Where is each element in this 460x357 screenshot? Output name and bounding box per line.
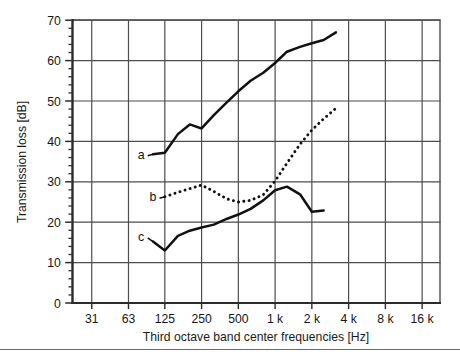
x-tick-label-125: 125 (155, 312, 176, 326)
figure-bottom-rule (0, 349, 460, 350)
curve-label-c: c (138, 230, 144, 244)
x-tick-label-8k: 8 k (377, 312, 394, 326)
y-axis-title: Transmission loss [dB] (15, 101, 29, 223)
y-tick-label-50: 50 (47, 95, 61, 109)
y-tick-label-20: 20 (47, 216, 61, 230)
x-axis-tick-labels: 31631252505001 k2 k4 k8 k16 k (85, 312, 435, 326)
curve-label-a: a (138, 148, 145, 162)
x-axis-title: Third octave band center frequencies [Hz… (143, 330, 369, 344)
y-tick-label-60: 60 (47, 54, 61, 68)
curve-label-b: b (150, 190, 157, 204)
x-tick-label-2k: 2 k (304, 312, 321, 326)
transmission-loss-chart: a b c 010203040506070 31631252505001 k2 … (0, 0, 460, 357)
x-tick-label-250: 250 (191, 312, 212, 326)
y-tick-label-10: 10 (47, 256, 61, 270)
figure-container: a b c 010203040506070 31631252505001 k2 … (0, 0, 460, 357)
y-axis-tick-labels: 010203040506070 (47, 14, 61, 311)
x-tick-label-1k: 1 k (267, 312, 284, 326)
x-tick-label-500: 500 (228, 312, 249, 326)
x-tick-label-63: 63 (122, 312, 136, 326)
x-tick-label-16k: 16 k (411, 312, 435, 326)
x-tick-label-31: 31 (85, 312, 99, 326)
x-tick-label-4k: 4 k (340, 312, 357, 326)
y-tick-label-30: 30 (47, 175, 61, 189)
y-tick-label-40: 40 (47, 135, 61, 149)
y-tick-label-70: 70 (47, 14, 61, 28)
y-tick-label-0: 0 (54, 297, 61, 311)
